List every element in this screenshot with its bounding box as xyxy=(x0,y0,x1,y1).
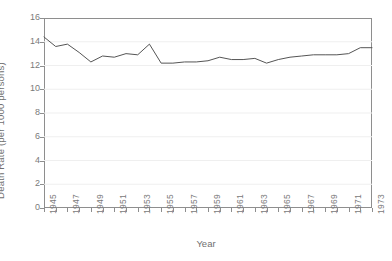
x-tick-mark xyxy=(126,208,127,212)
x-tick-mark xyxy=(337,208,338,212)
x-tick-mark xyxy=(290,208,291,212)
x-tick-mark xyxy=(220,208,221,212)
x-tick-mark xyxy=(79,208,80,212)
x-tick-mark xyxy=(372,208,373,212)
x-tick-mark xyxy=(255,208,256,212)
x-tick-mark xyxy=(349,208,350,212)
x-tick-mark xyxy=(278,208,279,212)
x-tick-mark xyxy=(185,208,186,212)
x-tick-mark xyxy=(360,208,361,212)
x-tick-mark xyxy=(44,208,45,212)
x-tick-mark xyxy=(267,208,268,212)
x-tick-mark xyxy=(67,208,68,212)
x-tick-mark xyxy=(161,208,162,212)
x-tick-mark xyxy=(243,208,244,212)
x-tick-mark xyxy=(149,208,150,212)
x-tick-mark xyxy=(231,208,232,212)
x-axis-title: Year xyxy=(40,238,372,249)
x-tick-mark xyxy=(114,208,115,212)
x-tick-mark xyxy=(138,208,139,212)
x-tick-mark xyxy=(302,208,303,212)
x-tick-mark xyxy=(313,208,314,212)
death-rate-line-chart: Death Rate (per 1000 persons) 0246810121… xyxy=(0,0,392,261)
x-tick-label: 1973 xyxy=(376,194,386,214)
x-tick-mark xyxy=(196,208,197,212)
x-tick-mark xyxy=(56,208,57,212)
x-tick-mark xyxy=(103,208,104,212)
x-tick-mark xyxy=(208,208,209,212)
x-tick-mark xyxy=(325,208,326,212)
x-tick-mark xyxy=(173,208,174,212)
x-axis-tick-group: 1945194719491951195319551957195919611963… xyxy=(0,0,392,261)
x-tick-mark xyxy=(91,208,92,212)
